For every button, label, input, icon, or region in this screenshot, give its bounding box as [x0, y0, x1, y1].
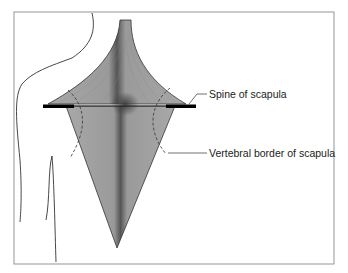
spine-bar-right: [166, 105, 196, 109]
spinous-knot: [111, 92, 139, 116]
label-spine-of-scapula: Spine of scapula: [209, 89, 287, 100]
figure-frame: [14, 12, 334, 264]
label-vertebral-border: Vertebral border of scapula: [209, 148, 335, 159]
diagram-canvas: [0, 0, 348, 273]
trapezius-diagram: Spine of scapula Vertebral border of sca…: [0, 0, 348, 273]
spine-bar-left: [43, 105, 74, 109]
